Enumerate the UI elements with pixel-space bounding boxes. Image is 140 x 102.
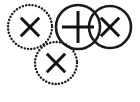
circle-3-x-icon — [101, 18, 119, 36]
circles-diagram — [0, 0, 140, 102]
circle-1-x-icon — [21, 18, 39, 36]
circle-1-group[interactable] — [8, 5, 52, 49]
circle-3-group[interactable] — [89, 6, 131, 48]
circle-4-group[interactable] — [35, 42, 77, 84]
circle-4-x-icon — [47, 54, 65, 72]
diagram-canvas — [0, 0, 140, 102]
